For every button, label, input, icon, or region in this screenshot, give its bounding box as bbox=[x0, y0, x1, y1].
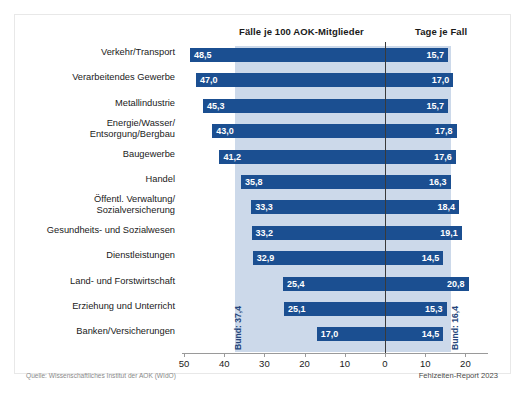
axis-tick-label: 10 bbox=[410, 358, 440, 369]
report-credit: Fehlzeiten-Report 2023 bbox=[419, 371, 498, 380]
bar-value-right: 14,5 bbox=[385, 327, 439, 341]
category-label: Energie/Wasser/ Entsorgung/Bergbau bbox=[0, 118, 175, 139]
category-label: Banken/Versicherungen bbox=[0, 326, 175, 337]
bar-left bbox=[196, 73, 385, 87]
bar-value-left: 17,0 bbox=[321, 327, 339, 341]
bar-value-left: 43,0 bbox=[216, 124, 234, 138]
axis-tick bbox=[184, 353, 185, 357]
bar-value-right: 17,0 bbox=[385, 73, 449, 87]
category-label: Dienstleistungen bbox=[0, 250, 175, 261]
category-label: Handel bbox=[0, 174, 175, 185]
bar-value-left: 47,0 bbox=[200, 73, 218, 87]
axis-tick bbox=[264, 353, 265, 357]
axis-tick-label: 10 bbox=[330, 358, 360, 369]
axis-tick-label: 20 bbox=[450, 358, 480, 369]
bar-value-right: 18,4 bbox=[385, 200, 455, 214]
bar-value-right: 15,3 bbox=[385, 302, 443, 316]
bar-value-left: 35,8 bbox=[245, 175, 263, 189]
bar-value-left: 25,1 bbox=[288, 302, 306, 316]
bar-left bbox=[219, 150, 385, 164]
axis-tick-label: 50 bbox=[169, 358, 199, 369]
bar-value-right: 20,8 bbox=[385, 277, 465, 291]
reference-label-right: Bund: 16,4 bbox=[450, 306, 460, 350]
panel-title-left: Fälle je 100 AOK-Mitglieder bbox=[239, 26, 364, 37]
category-label: Baugewerbe bbox=[0, 149, 175, 160]
category-label: Land- und Forstwirtschaft bbox=[0, 276, 175, 287]
bar-value-left: 41,2 bbox=[223, 150, 241, 164]
category-label: Verkehr/Transport bbox=[0, 47, 175, 58]
chart-plot-area: Fälle je 100 AOK-Mitglieder Tage je Fall… bbox=[0, 0, 525, 403]
axis-tick bbox=[345, 353, 346, 357]
bar-value-right: 17,6 bbox=[385, 150, 452, 164]
axis-tick bbox=[305, 353, 306, 357]
reference-label-left: Bund: 37,4 bbox=[233, 306, 243, 350]
bar-value-right: 15,7 bbox=[385, 99, 444, 113]
bar-value-right: 14,5 bbox=[385, 251, 439, 265]
category-label: Verarbeitendes Gewerbe bbox=[0, 72, 175, 83]
axis-tick-label: 20 bbox=[290, 358, 320, 369]
bar-value-right: 15,7 bbox=[385, 48, 444, 62]
source-note: Quelle: Wissenschaftliches Institut der … bbox=[26, 372, 176, 379]
axis-tick-label: 40 bbox=[209, 358, 239, 369]
bar-left bbox=[190, 48, 385, 62]
axis-tick bbox=[425, 353, 426, 357]
bar-value-left: 33,3 bbox=[255, 200, 273, 214]
zero-axis-line bbox=[385, 42, 386, 353]
axis-tick bbox=[385, 353, 386, 357]
bar-value-left: 48,5 bbox=[194, 48, 212, 62]
bar-value-left: 33,2 bbox=[256, 226, 274, 240]
category-label: Metallindustrie bbox=[0, 98, 175, 109]
category-label: Erziehung und Unterricht bbox=[0, 301, 175, 312]
x-axis-line bbox=[182, 353, 488, 354]
axis-tick-label: 0 bbox=[370, 358, 400, 369]
bar-value-right: 17,8 bbox=[385, 124, 453, 138]
bar-value-left: 32,9 bbox=[257, 251, 275, 265]
bar-value-right: 16,3 bbox=[385, 175, 447, 189]
bar-left bbox=[241, 175, 385, 189]
category-label: Gesundheits- und Sozialwesen bbox=[0, 225, 175, 236]
axis-tick-label: 30 bbox=[249, 358, 279, 369]
bar-value-left: 25,4 bbox=[287, 277, 305, 291]
category-label: Öffentl. Verwaltung/ Sozialversicherung bbox=[0, 194, 175, 215]
panel-title-right: Tage je Fall bbox=[415, 26, 467, 37]
axis-tick bbox=[224, 353, 225, 357]
bar-value-right: 19,1 bbox=[385, 226, 458, 240]
bar-left bbox=[212, 124, 385, 138]
bar-value-left: 45,3 bbox=[207, 99, 225, 113]
axis-tick bbox=[465, 353, 466, 357]
bar-left bbox=[203, 99, 385, 113]
